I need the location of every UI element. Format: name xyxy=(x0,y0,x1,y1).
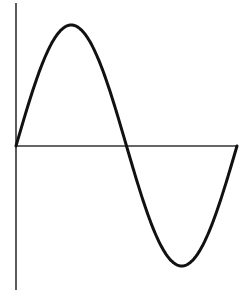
sine-wave-plot xyxy=(0,0,245,301)
sine-wave-diagram xyxy=(0,0,245,301)
